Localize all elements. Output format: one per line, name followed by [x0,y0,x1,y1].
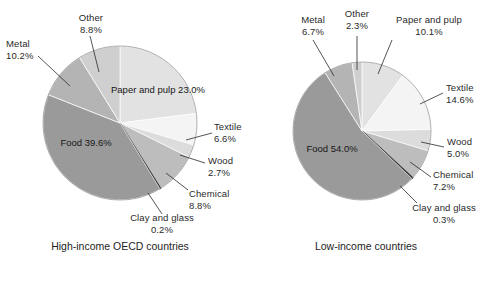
callout-right-wood-name: Wood [447,136,472,147]
leader-right-textile [420,93,443,104]
leader-right-clay [400,186,417,203]
callout-right-wood-value: 5.0% [447,148,472,160]
callout-left-wood-name: Wood [208,155,233,166]
callout-left-chemical-value: 8.8% [189,200,229,212]
callout-left-clay-value: 0.2% [112,224,212,236]
callout-left-metal: Metal 10.2% [6,38,33,61]
callout-left-wood-value: 2.7% [208,167,233,179]
callout-right-paper-value: 10.1% [385,26,473,38]
caption-left-line2: OECD countries [113,240,189,252]
inlabel-right-food-value: 54.0% [331,143,358,154]
callout-right-chemical: Chemical 7.2% [433,169,473,192]
caption-right-line2: countries [374,240,417,252]
callout-left-clay-and-glass: Clay and glass 0.2% [112,212,212,235]
callout-left-textile-value: 6.6% [214,133,242,145]
callout-right-metal-name: Metal [301,14,325,25]
callout-right-paper-name: Paper and pulp [396,14,462,25]
callout-right-clay-name: Clay and glass [412,202,476,213]
caption-right: Low-income countries [296,240,436,253]
caption-left: High-income OECD countries [50,240,190,253]
callout-left-metal-name: Metal [6,38,30,49]
callout-left-other-name: Other [79,12,103,23]
callout-right-chemical-name: Chemical [433,169,473,180]
callout-left-other: Other 8.8% [60,12,122,35]
callout-right-other-value: 2.3% [331,20,383,32]
figure-canvas: Other 8.8% Metal 10.2% Textile 6.6% Wood… [0,0,496,281]
callout-right-clay-value: 0.3% [396,214,492,226]
callout-right-chemical-value: 7.2% [433,181,473,193]
inlabel-left-paper-name: Paper and pulp [111,84,175,95]
callout-right-other: Other 2.3% [331,8,383,31]
inlabel-left-paper-value: 23.0% [178,84,205,95]
callout-left-wood: Wood 2.7% [208,155,233,178]
caption-right-line1: Low-income [315,240,372,252]
leader-left-clay [148,193,162,214]
callout-left-textile-name: Textile [214,121,242,132]
callout-left-chemical-name: Chemical [189,188,229,199]
callout-right-wood: Wood 5.0% [447,136,472,159]
callout-left-textile: Textile 6.6% [214,121,242,144]
callout-left-chemical: Chemical 8.8% [189,188,229,211]
inlabel-right-food: Food 54.0% [304,143,360,155]
callout-right-other-name: Other [345,8,369,19]
leader-right-metal [313,40,334,76]
inlabel-left-food: Food 39.6% [58,137,114,149]
caption-left-line1: High-income [51,240,110,252]
callout-left-other-value: 8.8% [60,24,122,36]
pie-right [293,62,431,200]
callout-left-clay-name: Clay and glass [130,212,194,223]
callout-right-textile-name: Textile [446,82,474,93]
pie-left [43,46,197,200]
callout-right-paper-and-pulp: Paper and pulp 10.1% [385,14,473,37]
callout-right-textile-value: 14.6% [446,94,474,106]
callout-right-textile: Textile 14.6% [446,82,474,105]
inlabel-right-food-name: Food [306,143,328,154]
inlabel-left-paper-and-pulp: Paper and pulp 23.0% [111,84,203,96]
inlabel-left-food-value: 39.6% [85,137,112,148]
callout-right-clay-and-glass: Clay and glass 0.3% [396,202,492,225]
inlabel-left-food-name: Food [60,137,82,148]
callout-left-metal-value: 10.2% [6,50,33,62]
